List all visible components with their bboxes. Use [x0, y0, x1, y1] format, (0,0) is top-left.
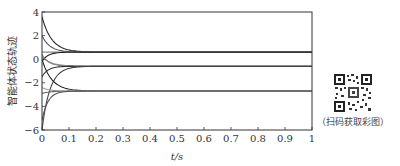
x-tick-label: 1: [309, 133, 315, 144]
trajectory-line: [42, 66, 312, 77]
y-tick-label: −4: [24, 101, 39, 112]
x-tick-label: 0.2: [88, 133, 104, 144]
trajectory-line: [42, 91, 312, 121]
y-axis-label: 智能体状态轨迹: [6, 36, 18, 106]
x-tick-label: 0: [39, 133, 45, 144]
plot-frame: [42, 12, 312, 130]
x-tick-label: 0.6: [196, 133, 212, 144]
trajectory-line: [42, 57, 312, 66]
trajectories: [42, 17, 312, 130]
qr-code: [333, 73, 373, 113]
trajectory-line: [42, 36, 312, 53]
y-tick-label: 2: [33, 30, 39, 41]
x-tick-label: 0.5: [169, 133, 185, 144]
x-tick-label: 0.1: [61, 133, 77, 144]
trajectory-line: [42, 66, 312, 130]
x-tick-label: 0.4: [142, 133, 158, 144]
trajectory-line: [42, 52, 312, 61]
y-tick-label: 4: [33, 7, 39, 18]
y-tick-label: 0: [33, 54, 39, 65]
trajectory-line: [42, 17, 312, 52]
qr-code-icon: [333, 73, 373, 113]
qr-caption: （扫码获取彩图）: [317, 115, 389, 128]
trajectory-line: [42, 59, 312, 91]
x-axis-label: t/s: [171, 151, 184, 162]
x-tick-label: 0.3: [115, 133, 131, 144]
x-tick-label: 0.7: [223, 133, 239, 144]
y-tick-label: −6: [24, 125, 39, 136]
y-tick-label: −2: [24, 77, 39, 88]
x-tick-label: 0.8: [250, 133, 266, 144]
x-tick-label: 0.9: [277, 133, 293, 144]
trajectory-line: [42, 54, 312, 66]
